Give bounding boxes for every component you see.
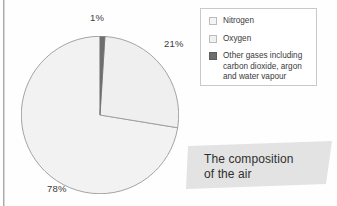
legend-item-oxygen[interactable]: Oxygen — [209, 34, 310, 45]
legend-swatch-oxygen-icon — [209, 35, 217, 43]
pie-label-oxygen-percent: 21% — [164, 38, 184, 49]
pie-slice-oxygen[interactable] — [100, 36, 179, 127]
pie-chart-svg — [21, 36, 179, 194]
legend-swatch-nitrogen-icon — [209, 17, 217, 25]
caption-banner: The composition of the air — [186, 141, 332, 191]
legend-swatch-other-gases-icon — [209, 52, 217, 60]
figure-root: 1% 21% 78% Nitrogen Oxygen Other gases i… — [0, 0, 337, 206]
pie-label-nitrogen-percent: 78% — [47, 183, 67, 194]
legend-item-other-gases[interactable]: Other gases including carbon dioxide, ar… — [209, 51, 310, 83]
legend-label-nitrogen: Nitrogen — [223, 16, 254, 27]
legend-label-other-gases: Other gases including carbon dioxide, ar… — [223, 51, 310, 83]
pie-chart — [21, 36, 179, 194]
caption-line-2: of the air — [204, 167, 294, 182]
caption-line-1: The composition — [204, 152, 294, 167]
legend-item-nitrogen[interactable]: Nitrogen — [209, 16, 310, 27]
page-edge-shadow — [4, 0, 5, 206]
caption-text: The composition of the air — [204, 152, 294, 182]
chart-legend: Nitrogen Oxygen Other gases including ca… — [200, 8, 317, 86]
pie-label-other-gases-percent: 1% — [90, 12, 104, 23]
legend-label-oxygen: Oxygen — [223, 34, 251, 45]
